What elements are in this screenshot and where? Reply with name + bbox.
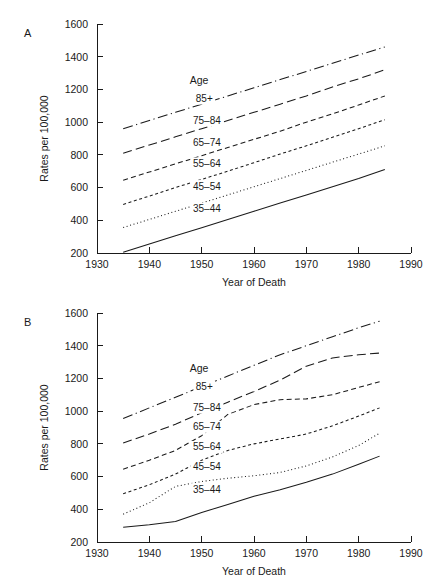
x-tick-label: 1930 — [85, 258, 109, 270]
x-tick-label: 1950 — [190, 547, 214, 559]
series-label-45-54: 45–54 — [193, 461, 221, 472]
y-tick-label: 600 — [70, 470, 88, 482]
y-tick-label: 1200 — [65, 372, 89, 384]
y-axis-title: Rates per 100,000 — [38, 95, 50, 182]
x-tick-label: 1950 — [190, 258, 214, 270]
series-line-s55 — [123, 120, 385, 205]
y-tick-label: 1400 — [65, 51, 89, 63]
y-tick-label: 600 — [70, 181, 88, 193]
panel-a-plot: 2004006008001000120014001600193019401950… — [0, 0, 438, 288]
x-tick-label: 1980 — [347, 547, 371, 559]
series-label-35-44: 35–44 — [193, 203, 221, 214]
series-label-65-74: 65–74 — [193, 137, 221, 148]
panel-a: A 20040060080010001200140016001930194019… — [0, 0, 438, 288]
y-tick-label: 1400 — [65, 340, 89, 352]
series-label-45-54: 45–54 — [193, 181, 221, 192]
x-tick-label: 1960 — [242, 258, 266, 270]
series-line-s45 — [123, 433, 379, 514]
y-tick-label: 1000 — [65, 116, 89, 128]
x-axis-title: Year of Death — [222, 276, 286, 288]
series-line-s85 — [123, 321, 379, 418]
series-line-s55 — [123, 408, 379, 494]
series-line-s35 — [123, 456, 379, 527]
y-tick-label: 800 — [70, 438, 88, 450]
panel-b: B 20040060080010001200140016001930194019… — [0, 289, 438, 577]
x-tick-label: 1970 — [295, 547, 319, 559]
x-tick-label: 1970 — [295, 258, 319, 270]
series-label-55-64: 55–64 — [193, 158, 221, 169]
y-tick-label: 200 — [70, 536, 88, 548]
x-tick-label: 1940 — [138, 258, 162, 270]
y-tick-label: 1600 — [65, 18, 89, 30]
series-label-65-74: 65–74 — [193, 421, 221, 432]
series-label-85-plus: 85+ — [196, 381, 213, 392]
y-tick-label: 800 — [70, 149, 88, 161]
series-line-s85 — [123, 47, 385, 129]
legend-title: Age — [190, 362, 209, 374]
series-label-75-84: 75–84 — [193, 402, 221, 413]
y-tick-label: 1600 — [65, 307, 89, 319]
series-line-s45 — [123, 146, 385, 228]
x-tick-label: 1960 — [242, 547, 266, 559]
series-label-85-plus: 85+ — [196, 93, 213, 104]
series-line-s65 — [123, 382, 379, 470]
series-label-75-84: 75–84 — [193, 115, 221, 126]
y-tick-label: 1000 — [65, 405, 89, 417]
series-line-s35 — [123, 170, 385, 253]
x-tick-label: 1990 — [399, 547, 423, 559]
x-tick-label: 1930 — [85, 547, 109, 559]
x-tick-label: 1990 — [399, 258, 423, 270]
figure-mortality-rates-by-age: A 20040060080010001200140016001930194019… — [0, 0, 438, 577]
y-tick-label: 200 — [70, 247, 88, 259]
series-label-35-44: 35–44 — [193, 484, 221, 495]
x-axis-title: Year of Death — [222, 565, 286, 577]
y-tick-label: 400 — [70, 214, 88, 226]
x-tick-label: 1940 — [138, 547, 162, 559]
y-tick-label: 400 — [70, 503, 88, 515]
series-line-s65 — [123, 96, 385, 180]
x-tick-label: 1980 — [347, 258, 371, 270]
series-label-55-64: 55–64 — [193, 441, 221, 452]
series-line-s75 — [123, 353, 379, 443]
legend-title: Age — [190, 74, 209, 86]
y-tick-label: 1200 — [65, 83, 89, 95]
series-line-s75 — [123, 70, 385, 153]
y-axis-title: Rates per 100,000 — [38, 384, 50, 471]
panel-b-plot: 2004006008001000120014001600193019401950… — [0, 289, 438, 577]
